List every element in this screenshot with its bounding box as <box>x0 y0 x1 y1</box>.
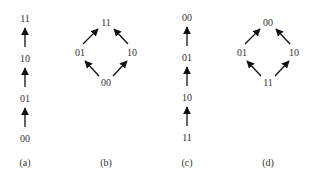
arrow-00-to-01 <box>85 61 99 76</box>
node-00: 00 <box>20 133 30 144</box>
node-10: 10 <box>20 53 30 64</box>
panel-c: 00 01 10 11 (c) <box>181 12 192 169</box>
node-10: 10 <box>127 47 137 58</box>
node-01: 01 <box>20 93 30 104</box>
arrow-10-to-11 <box>114 29 128 44</box>
node-01: 01 <box>182 52 192 63</box>
node-11: 11 <box>182 132 192 143</box>
node-01: 01 <box>75 47 85 58</box>
arrow-11-to-10 <box>275 61 289 76</box>
panel-a: 11 10 01 00 (a) <box>19 13 30 169</box>
arrow-10-to-00 <box>276 29 290 44</box>
node-00: 00 <box>101 77 111 88</box>
caption-c: (c) <box>181 157 192 169</box>
panel-d: 00 01 10 11 (d) <box>237 17 299 169</box>
lattice-diagram: 11 10 01 00 (a) 11 01 10 00 (b) 00 01 10… <box>0 0 310 178</box>
node-01: 01 <box>237 47 247 58</box>
arrow-00-to-10 <box>113 61 127 76</box>
node-11: 11 <box>20 13 30 24</box>
panel-b: 11 01 10 00 (b) <box>75 17 137 169</box>
arrow-01-to-00 <box>245 29 260 44</box>
node-10: 10 <box>289 47 299 58</box>
node-11: 11 <box>263 77 273 88</box>
caption-b: (b) <box>100 157 112 169</box>
caption-d: (d) <box>262 157 274 169</box>
node-11: 11 <box>101 17 111 28</box>
caption-a: (a) <box>19 157 30 169</box>
arrow-11-to-01 <box>247 61 261 76</box>
arrow-01-to-11 <box>83 29 98 44</box>
node-00: 00 <box>263 17 273 28</box>
node-00: 00 <box>182 12 192 23</box>
node-10: 10 <box>182 92 192 103</box>
